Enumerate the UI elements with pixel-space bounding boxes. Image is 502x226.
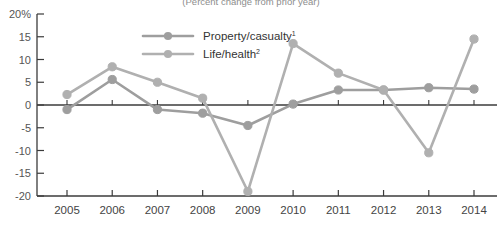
x-axis-tick-label: 2011 (326, 204, 351, 216)
x-axis-tick-label: 2013 (416, 204, 442, 216)
legend-marker-icon (164, 50, 172, 58)
series-1-point (63, 105, 71, 113)
line-chart-plot: 20%151050-5-10-15-20 2005200620072008200… (0, 0, 502, 226)
x-axis-tick-label: 2007 (145, 204, 171, 216)
legend-label: Property/casualty1 (203, 30, 296, 42)
y-axis-tick-label: -5 (21, 122, 31, 134)
legend-label: Life/health2 (203, 48, 260, 60)
series-2-point (379, 86, 387, 94)
x-axis-tick-label: 2008 (190, 204, 216, 216)
x-axis-tick-label: 2010 (280, 204, 306, 216)
series-1-point (199, 109, 207, 117)
series-2-point (63, 90, 71, 98)
x-axis-tick-label: 2009 (235, 204, 261, 216)
y-axis-tick-label: 10 (19, 54, 31, 66)
chart-legend: Property/casualty1Life/health2 (143, 30, 296, 60)
series-2-point (108, 63, 116, 71)
series-1-point (470, 85, 478, 93)
series-2-point (425, 149, 433, 157)
series-line-2 (67, 39, 474, 191)
series-1-point (153, 105, 161, 113)
series-1-point (108, 75, 116, 83)
data-series-group (63, 35, 478, 196)
series-2-point (334, 69, 342, 77)
y-axis-tick-label: 20% (9, 8, 31, 20)
y-axis-tick-label: -10 (15, 145, 31, 157)
series-2-point (470, 35, 478, 43)
y-axis-tick-label: 0 (25, 99, 31, 111)
chart-container: (Percent change from prior year) 20%1510… (0, 0, 502, 226)
x-axis-tick-label: 2006 (99, 204, 125, 216)
series-1-point (244, 121, 252, 129)
y-axis-tick-label: -15 (15, 167, 31, 179)
series-2-point (199, 94, 207, 102)
series-2-point (244, 187, 252, 195)
x-axis-tick-label: 2005 (54, 204, 80, 216)
x-axis-tick-label: 2014 (461, 204, 487, 216)
series-2-point (153, 78, 161, 86)
series-1-point (289, 100, 297, 108)
legend-marker-icon (164, 32, 172, 40)
y-axis-tick-label: 5 (25, 76, 31, 88)
series-1-point (425, 84, 433, 92)
y-axis-tick-label: -20 (15, 190, 31, 202)
y-axis-tick-label: 15 (19, 31, 31, 43)
x-axis-tick-label: 2012 (371, 204, 397, 216)
series-1-point (334, 86, 342, 94)
